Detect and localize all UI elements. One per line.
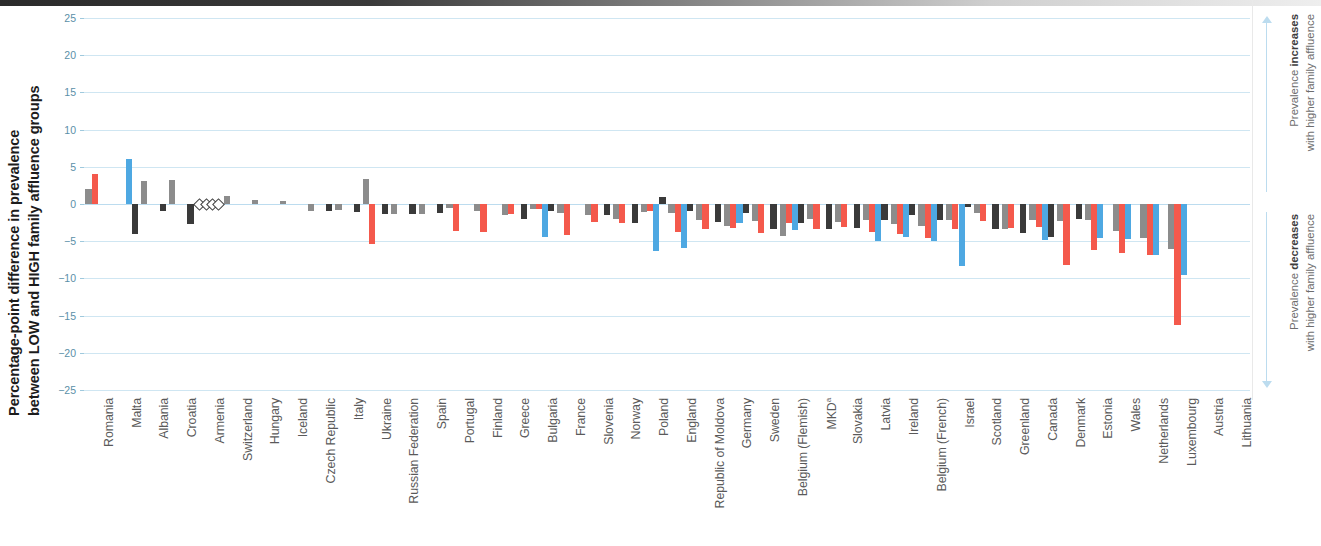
down-arrow-line	[1266, 212, 1267, 382]
bar	[187, 204, 193, 224]
gridline	[84, 390, 1250, 391]
bar	[743, 204, 749, 213]
bar	[391, 204, 397, 214]
plot-area	[84, 18, 1250, 390]
gridline	[84, 353, 1250, 354]
gridline	[84, 278, 1250, 279]
bar	[224, 196, 230, 204]
bar	[841, 204, 847, 227]
gridline	[84, 130, 1250, 131]
bar	[453, 204, 459, 231]
x-tick-label: Poland	[657, 398, 671, 436]
bar	[521, 204, 527, 219]
y-tick-label: −20	[40, 347, 76, 359]
x-tick-label: MKDa	[824, 398, 839, 430]
bar	[419, 204, 425, 214]
x-tick-label: Estonia	[1101, 398, 1115, 439]
gridline	[84, 167, 1250, 168]
x-tick-label: Armenia	[213, 398, 227, 443]
x-tick-label: Sweden	[768, 398, 782, 442]
gridline	[84, 92, 1250, 93]
bar	[1097, 204, 1103, 238]
x-tick-label: Canada	[1046, 398, 1060, 441]
x-tick-label: Finland	[491, 398, 505, 438]
bar	[758, 204, 764, 233]
bar	[369, 204, 375, 244]
bar	[813, 204, 819, 229]
bar	[480, 204, 486, 232]
x-tick-label: Greenland	[1018, 398, 1032, 455]
bar	[854, 204, 860, 228]
down-arrow-head	[1262, 381, 1272, 388]
bar	[959, 204, 965, 266]
bar	[1008, 204, 1014, 228]
annotation-decreases-bold: decreases	[1288, 214, 1300, 270]
x-tick-label: England	[685, 398, 699, 443]
bar	[335, 204, 341, 210]
bar	[252, 200, 258, 204]
bar	[653, 204, 659, 251]
annotation-increases-bold: increases	[1288, 14, 1300, 67]
bar	[980, 204, 986, 221]
bar	[548, 204, 554, 211]
x-tick-label: Denmark	[1074, 398, 1088, 448]
x-tick-label: Lithuania	[1240, 398, 1254, 447]
bar	[132, 204, 138, 234]
bar	[437, 204, 443, 213]
bar	[881, 204, 887, 220]
x-axis-labels: RomaniaMaltaAlbaniaCroatiaArmeniaSwitzer…	[84, 392, 1250, 544]
bar	[141, 181, 147, 204]
x-tick-label: Austria	[1212, 398, 1226, 436]
x-tick-label: Belgium (French)	[935, 398, 949, 491]
x-tick-label: Bulgaria	[546, 398, 560, 443]
bar	[937, 204, 943, 220]
gridline	[84, 241, 1250, 242]
annotation-decreases-prefix: Prevalence	[1288, 270, 1300, 330]
x-tick-label: Germany	[740, 398, 754, 448]
x-tick-label: Albania	[157, 398, 171, 439]
bar	[160, 204, 166, 211]
bar	[992, 204, 998, 229]
gridline	[84, 316, 1250, 317]
gridline	[84, 18, 1250, 19]
direction-annotations: Prevalence increases with higher family …	[1258, 0, 1321, 400]
y-tick-label: 0	[40, 198, 76, 210]
bar	[564, 204, 570, 235]
annotation-decreases: Prevalence decreases	[1288, 214, 1300, 330]
x-tick-label: Belgium (Flemish)	[796, 398, 810, 496]
x-tick-label: Scotland	[990, 398, 1004, 445]
bar	[354, 204, 360, 212]
x-tick-label: Republic of Moldova	[713, 398, 727, 508]
bar	[363, 179, 369, 204]
chart-figure: Percentage-point difference in prevalenc…	[0, 0, 1321, 546]
y-tick-label: 5	[40, 161, 76, 173]
bar	[280, 201, 286, 204]
x-tick-label: France	[574, 398, 588, 436]
y-tick-label: 25	[40, 12, 76, 24]
bar	[126, 159, 132, 204]
bar	[1153, 204, 1159, 255]
x-tick-label: Norway	[629, 398, 643, 439]
x-tick-label: Israel	[963, 398, 977, 428]
annotation-increases-prefix: Prevalence	[1288, 67, 1300, 127]
bar	[909, 204, 915, 215]
y-tick-label: −10	[40, 272, 76, 284]
bar	[798, 204, 804, 223]
y-tick-label: 15	[40, 86, 76, 98]
bar	[715, 204, 721, 222]
bar	[1181, 204, 1187, 275]
bar	[591, 204, 597, 222]
x-tick-label: Czech Republic	[324, 398, 338, 483]
bar	[632, 204, 638, 223]
x-tick-label: Slovakia	[851, 398, 865, 444]
y-tick-label: 20	[40, 49, 76, 61]
bar	[326, 204, 332, 211]
bar	[1063, 204, 1069, 265]
bar	[1076, 204, 1082, 219]
bar	[702, 204, 708, 229]
x-tick-label: Ireland	[907, 398, 921, 435]
x-tick-label: Wales	[1129, 398, 1143, 431]
bar	[619, 204, 625, 223]
y-tick-label: 10	[40, 124, 76, 136]
x-tick-label: Russian Federation	[407, 398, 421, 504]
